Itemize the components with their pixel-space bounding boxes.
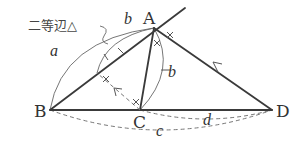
point-A-label: A xyxy=(142,8,156,28)
geometry-diagram: 二等辺△ A B C D a b b d c xyxy=(0,0,303,144)
length-a-label: a xyxy=(50,42,58,59)
length-b-right-label: b xyxy=(168,63,176,80)
arrow-icon xyxy=(114,88,122,96)
arc-b-top xyxy=(97,28,154,73)
note-isosceles-label: 二等辺△ xyxy=(28,18,77,33)
point-D-label: D xyxy=(276,101,290,121)
length-c-label: c xyxy=(156,122,163,139)
length-d-label: d xyxy=(203,111,212,128)
point-B-label: B xyxy=(34,101,47,121)
point-C-label: C xyxy=(133,112,146,132)
length-b-top-label: b xyxy=(124,10,132,27)
tick-mark-icon xyxy=(104,48,170,70)
